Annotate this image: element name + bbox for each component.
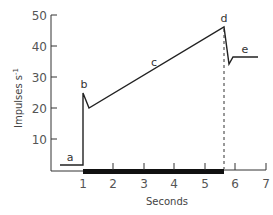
x-tick-label: 5: [201, 177, 209, 191]
x-tick-label: 1: [79, 177, 87, 191]
segment-label-d: d: [221, 12, 228, 25]
segment-label-a: a: [67, 151, 74, 164]
y-tick-label: 50: [32, 9, 47, 23]
y-axis-label: Impulses s-1: [12, 68, 24, 128]
segment-label-e: e: [242, 43, 249, 56]
y-tick-label: 10: [32, 133, 47, 147]
x-tick-label: 3: [140, 177, 148, 191]
x-axis-label: Seconds: [146, 196, 188, 207]
segment-label-c: c: [151, 56, 157, 69]
firing-rate-line: [60, 27, 258, 165]
y-tick-label: 40: [32, 40, 47, 54]
y-tick-label: 20: [32, 102, 47, 116]
segment-label-b: b: [81, 78, 88, 91]
chart: 50 40 30 20 10 Impulses s-1 1 2 3 4 5 6 …: [0, 0, 273, 215]
x-tick-label: 2: [109, 177, 117, 191]
y-tick-label: 30: [32, 71, 47, 85]
x-tick-label: 6: [231, 177, 239, 191]
x-tick-label: 4: [170, 177, 178, 191]
x-tick-label: 7: [262, 177, 270, 191]
stimulus-bar: [83, 169, 224, 174]
